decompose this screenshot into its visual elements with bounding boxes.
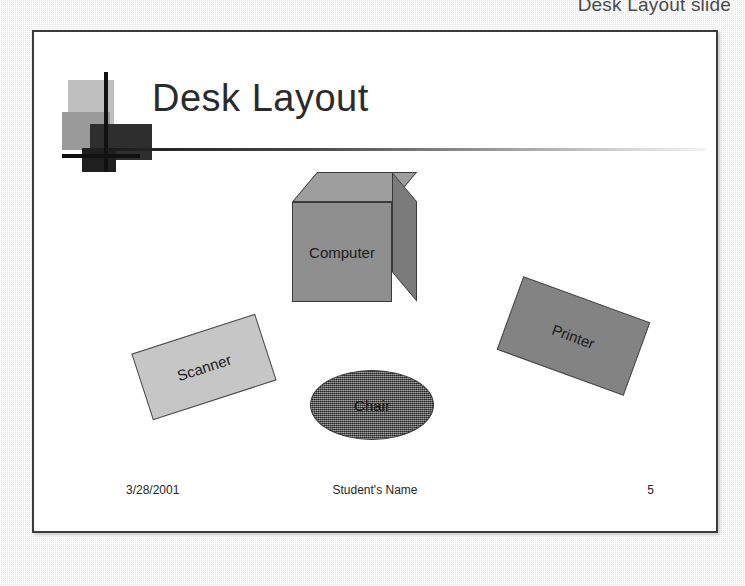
shape-computer[interactable]: Computer	[292, 172, 416, 302]
footer-slide-number: 5	[647, 483, 654, 497]
title-underline-rule	[106, 148, 706, 151]
decoration-dark-square-secondary	[82, 148, 116, 172]
slide-footer: 3/28/2001 Student's Name 5	[34, 483, 716, 501]
shape-label-scanner: Scanner	[133, 315, 276, 419]
decoration-horizontal-line	[62, 154, 140, 158]
shape-chair[interactable]: Chair	[310, 370, 434, 440]
slide-title[interactable]: Desk Layout	[152, 77, 369, 120]
shape-printer[interactable]: Printer	[497, 276, 651, 395]
slide-canvas[interactable]: Desk Layout Computer Scanner Printer Cha…	[32, 30, 718, 533]
footer-author-name: Student's Name	[34, 483, 716, 497]
cube-front-face: Computer	[292, 202, 392, 302]
shape-label-printer: Printer	[498, 278, 649, 395]
shape-label-computer: Computer	[293, 203, 391, 301]
cube-side-face	[392, 172, 417, 302]
shape-scanner[interactable]: Scanner	[131, 314, 276, 421]
title-decoration	[62, 72, 152, 172]
shape-label-chair: Chair	[311, 371, 433, 439]
page-caption: Desk Layout slide	[578, 0, 731, 16]
